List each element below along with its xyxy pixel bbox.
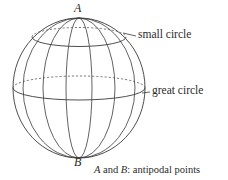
small-circle-label: small circle (138, 29, 191, 41)
pole-b-label: B (74, 156, 81, 168)
meridian-3 (23, 18, 135, 158)
small-circle-back-arc (32, 28, 126, 38)
meridian-2 (43, 18, 115, 158)
pole-a-label: A (74, 2, 81, 14)
great-circle-label: great circle (152, 85, 203, 97)
caption-conjunction: and (100, 164, 120, 175)
great-circle-leader-line (142, 92, 150, 93)
great-circle-back-arc (13, 76, 145, 88)
meridian-1 (66, 18, 92, 158)
meridian-group (23, 18, 135, 158)
great-circle-front-arc (13, 88, 145, 100)
small-circle-front-arc (32, 37, 126, 47)
caption-rest: : antipodal points (127, 164, 200, 175)
figure-caption: A and B: antipodal points (94, 164, 200, 175)
